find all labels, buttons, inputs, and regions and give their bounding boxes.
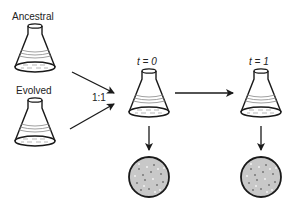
arrow-ancestral-to-mix: [72, 72, 114, 93]
evolved-label: Evolved: [16, 85, 52, 96]
arrow-evolved-to-mix: [70, 104, 114, 129]
competition-diagram: [0, 0, 293, 206]
evolved-flask-icon: [15, 98, 55, 146]
ancestral-label: Ancestral: [12, 11, 54, 22]
ancestral-flask-icon: [15, 24, 55, 72]
mixed-flask-t0-icon: [129, 69, 169, 117]
t1-label: t = 1: [249, 56, 269, 67]
ratio-label: 1:1: [92, 92, 106, 103]
t0-label: t = 0: [137, 56, 157, 67]
flask-t1-icon: [241, 69, 281, 117]
plate-t1-icon: [241, 157, 281, 197]
plate-t0-icon: [129, 157, 169, 197]
